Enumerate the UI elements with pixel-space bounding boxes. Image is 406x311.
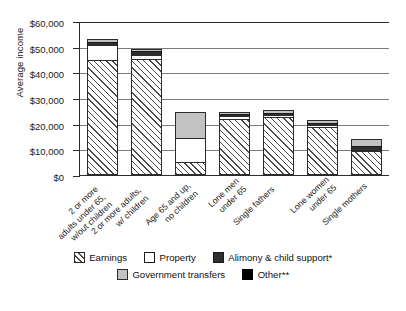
bar-segment-government-transfers <box>175 112 206 138</box>
y-axis-tick: $20,000 <box>73 125 80 126</box>
y-axis-tick-label: $40,000 <box>30 69 64 80</box>
bar-7 <box>351 139 382 175</box>
bar-segment-property <box>175 138 206 162</box>
legend-item-earnings: Earnings <box>74 252 127 263</box>
legend-item-government-transfers: Government transfers <box>117 269 225 280</box>
y-axis-tick: $50,000 <box>73 48 80 49</box>
y-axis-title: Average income <box>14 8 25 118</box>
bar-6 <box>307 120 338 175</box>
chart-legend: Earnings Property Alimony & child suppor… <box>0 252 406 280</box>
bar-segment-earnings <box>131 59 162 175</box>
plot-area: $0$10,000$20,000$30,000$40,000$50,000$60… <box>79 22 389 176</box>
bar-segment-government-transfers <box>351 139 382 146</box>
bar-segment-earnings <box>263 117 294 175</box>
y-axis-tick-label: $0 <box>53 172 64 183</box>
legend-item-property: Property <box>144 252 196 263</box>
bar-segment-earnings <box>87 60 118 176</box>
legend-swatch-property-icon <box>144 252 155 263</box>
legend-label-other: Other** <box>258 269 289 280</box>
x-axis-labels: 2 or moreadults under 65,w/out children2… <box>79 176 389 248</box>
legend-item-alimony: Alimony & child support* <box>213 252 332 263</box>
bar-segment-property <box>87 45 118 60</box>
bar-3 <box>175 112 206 175</box>
bar-segment-earnings <box>351 151 382 175</box>
x-axis-label-3: Age 65 and up,no children <box>143 180 200 235</box>
bar-5 <box>263 110 294 175</box>
y-axis-tick-label: $50,000 <box>30 43 64 54</box>
y-axis-tick-label: $60,000 <box>30 18 64 29</box>
y-axis-tick: $10,000 <box>73 150 80 151</box>
y-axis-tick-label: $10,000 <box>30 146 64 157</box>
legend-swatch-other-icon <box>242 269 253 280</box>
legend-swatch-alimony-icon <box>213 252 224 263</box>
bar-2 <box>131 49 162 175</box>
bar-4 <box>219 112 250 175</box>
legend-label-alimony: Alimony & child support* <box>228 252 332 263</box>
y-axis-tick: $40,000 <box>73 73 80 74</box>
legend-label-property: Property <box>160 252 196 263</box>
y-axis-tick: $30,000 <box>73 99 80 100</box>
y-axis-tick: $60,000 <box>73 22 80 23</box>
legend-item-other: Other** <box>242 269 289 280</box>
legend-swatch-government-transfers-icon <box>117 269 128 280</box>
legend-label-earnings: Earnings <box>89 252 127 263</box>
bar-group <box>80 22 389 175</box>
bar-segment-earnings <box>307 127 338 175</box>
legend-swatch-earnings-icon <box>74 252 85 263</box>
bar-segment-earnings <box>219 119 250 175</box>
legend-row-1: Earnings Property Alimony & child suppor… <box>74 252 333 263</box>
bar-1 <box>87 39 118 175</box>
y-axis-tick-label: $20,000 <box>30 120 64 131</box>
legend-label-government-transfers: Government transfers <box>132 269 225 280</box>
y-axis-tick-label: $30,000 <box>30 95 64 106</box>
stacked-bar-chart: Average income $0$10,000$20,000$30,000$4… <box>0 0 406 311</box>
legend-row-2: Government transfers Other** <box>117 269 289 280</box>
bar-segment-earnings <box>175 162 206 175</box>
